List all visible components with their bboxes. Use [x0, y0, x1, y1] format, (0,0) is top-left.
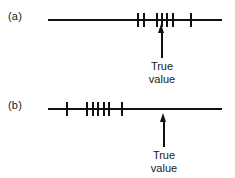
arrow-shaft [163, 120, 165, 147]
panel-a-true-value-line1: True [139, 60, 185, 73]
panel-a-axis-line [48, 19, 222, 21]
panel-b-true-value-arrow-icon [158, 113, 170, 147]
panel-b-tick [92, 102, 94, 116]
panel-b: (b) True value [0, 89, 235, 178]
panel-b-true-value-line2: value [141, 162, 187, 175]
panel-a-label: (a) [8, 10, 22, 22]
panel-a-tick [143, 13, 145, 27]
panel-b-tick [121, 102, 123, 116]
panel-b-tick [108, 102, 110, 116]
panel-a: (a) True value [0, 0, 235, 89]
panel-a-tick [190, 13, 192, 27]
panel-b-tick [103, 102, 105, 116]
panel-b-tick [66, 102, 68, 116]
panel-b-true-value-line1: True [141, 149, 187, 162]
panel-a-tick [137, 13, 139, 27]
panel-a-true-value-arrow-icon [156, 24, 168, 58]
figure-container: (a) True value (b) [0, 0, 235, 178]
panel-b-label: (b) [8, 99, 22, 111]
panel-a-true-value-label: True value [139, 60, 185, 85]
panel-b-tick [86, 102, 88, 116]
panel-a-tick [172, 13, 174, 27]
panel-a-true-value-line2: value [139, 73, 185, 86]
panel-b-tick [97, 102, 99, 116]
panel-b-axis-line [48, 108, 222, 110]
panel-b-true-value-label: True value [141, 149, 187, 174]
arrow-shaft [161, 31, 163, 58]
